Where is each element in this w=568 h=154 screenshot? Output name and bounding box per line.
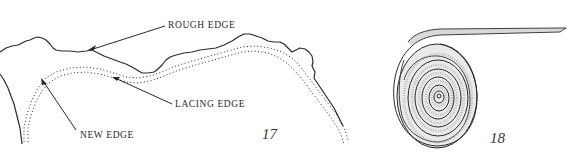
figure-18-drawing xyxy=(394,28,566,148)
lacing-dotted-line-inner xyxy=(28,51,344,144)
new-edge-label: NEW EDGE xyxy=(80,130,134,140)
lacing-edge-label: LACING EDGE xyxy=(175,99,245,109)
lacing-edge-arrow xyxy=(112,77,172,104)
left-edge-line xyxy=(0,74,22,144)
lacing-dotted-line-outer xyxy=(24,46,348,142)
new-edge-arrow xyxy=(41,78,76,130)
figure-17-number: 17 xyxy=(262,126,277,143)
rough-edge-arrow xyxy=(88,26,165,50)
rough-edge-line xyxy=(0,34,343,126)
rolled-strip-tail xyxy=(408,28,566,46)
figure-18-number: 18 xyxy=(490,130,505,147)
rough-edge-label: ROUGH EDGE xyxy=(168,20,235,30)
figure-17-drawing xyxy=(0,26,348,144)
